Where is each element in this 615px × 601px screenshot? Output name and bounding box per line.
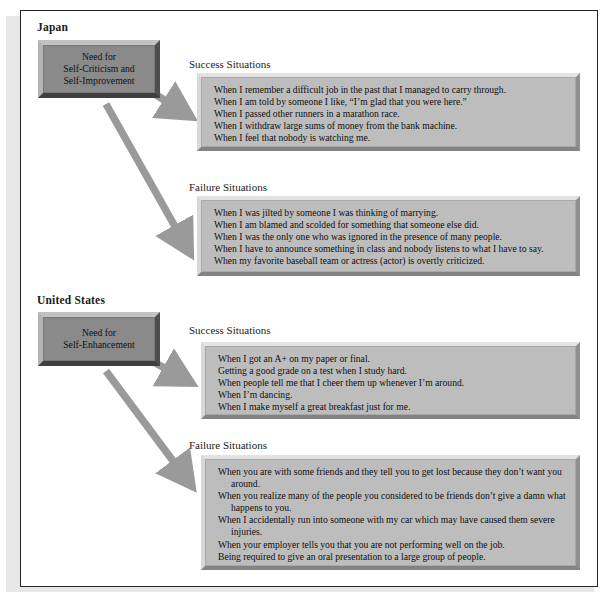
japan-concept-box: Need for Self-Criticism and Self-Improve… [38,40,160,98]
japan-concept-text: Need for Self-Criticism and Self-Improve… [60,51,137,88]
japan-failure-heading: Failure Situations [189,181,267,193]
us-failure-box-face: When you are with some friends and they … [205,459,576,566]
us-concept-line-1: Need for [63,327,135,339]
us-concept-text: Need for Self-Enhancement [60,327,138,352]
list-item-text: When you realize many of the people you … [218,490,566,513]
japan-success-box: When I remember a difficult job in the p… [197,73,580,151]
us-success-heading: Success Situations [189,324,271,336]
list-item-text: Being required to give an oral presentat… [218,551,486,562]
arrow-japan-to-failure [106,104,182,239]
list-item: When I have to announce something in cla… [214,243,566,255]
list-item: When you realize many of the people you … [218,490,566,514]
us-concept-box: Need for Self-Enhancement [38,312,160,366]
japan-success-box-face: When I remember a difficult job in the p… [201,77,576,147]
section-label-japan: Japan [37,21,68,33]
section-label-united-states: United States [37,294,105,306]
list-item: When I make myself a great breakfast jus… [218,401,566,413]
us-failure-box: When you are with some friends and they … [201,455,580,570]
list-item: When your employer tells you that you ar… [218,539,566,551]
list-item: When I withdraw large sums of money from… [214,120,566,132]
list-item: When my favorite baseball team or actres… [214,255,566,267]
list-item: Getting a good grade on a test when I st… [218,365,566,377]
list-item-text: When I accidentally run into someone wit… [218,514,555,537]
list-item: Being required to give an oral presentat… [218,551,566,563]
list-item: When I feel that nobody is watching me. [214,132,566,144]
list-item-text: When you are with some friends and they … [218,466,562,489]
us-success-box: When I got an A+ on my paper or final. G… [201,342,580,419]
list-item: When I’m dancing. [218,389,566,401]
list-item: When I am told by someone I like, “I’m g… [214,96,566,108]
japan-concept-box-face: Need for Self-Criticism and Self-Improve… [43,45,155,93]
list-item: When I remember a difficult job in the p… [214,84,566,96]
japan-concept-line-3: Self-Improvement [63,75,134,87]
list-item: When you are with some friends and they … [218,466,566,490]
japan-concept-line-1: Need for [63,51,134,63]
list-item: When I am blamed and scolded for somethi… [214,219,566,231]
us-concept-box-face: Need for Self-Enhancement [43,317,155,361]
japan-success-heading: Success Situations [189,58,271,70]
us-concept-line-2: Self-Enhancement [63,339,135,351]
list-item: When I accidentally run into someone wit… [218,514,566,538]
figure-frame: Japan Need for Self-Criticism and Self-I… [20,10,598,587]
arrow-us-to-failure [106,371,182,473]
list-item: When I passed other runners in a maratho… [214,108,566,120]
japan-failure-box-face: When I was jilted by someone I was think… [201,200,576,272]
us-success-box-face: When I got an A+ on my paper or final. G… [205,346,576,415]
list-item: When I was jilted by someone I was think… [214,207,566,219]
list-item: When I was the only one who was ignored … [214,231,566,243]
list-item: When I got an A+ on my paper or final. [218,353,566,365]
list-item-text: When your employer tells you that you ar… [218,539,505,550]
japan-failure-box: When I was jilted by someone I was think… [197,196,580,276]
figure-inner: Japan Need for Self-Criticism and Self-I… [21,11,597,586]
figure-canvas: Japan Need for Self-Criticism and Self-I… [0,0,615,601]
list-item: When people tell me that I cheer them up… [218,377,566,389]
us-failure-heading: Failure Situations [189,439,267,451]
japan-concept-line-2: Self-Criticism and [63,63,134,75]
